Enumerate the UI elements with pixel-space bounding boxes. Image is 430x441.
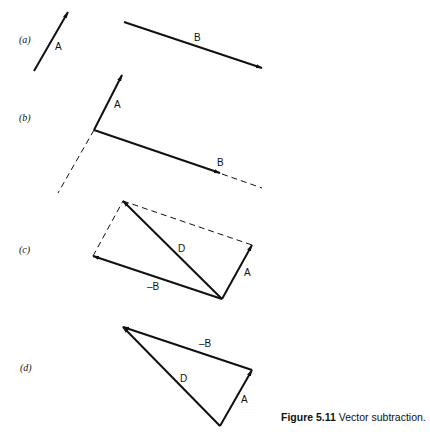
vector-neg-b [123, 327, 252, 370]
panel-d-label: (d) [20, 362, 32, 374]
panel-a: (a) A B [19, 12, 262, 71]
vector-subtraction-figure: (a) A B (b) A B (c) A –B D (d) A –B D [0, 0, 430, 441]
vector-a-extension-dashed [58, 130, 94, 193]
vector-a [34, 12, 68, 71]
panel-d: (d) A –B D [20, 327, 252, 426]
panel-c: (c) A –B D [19, 201, 252, 299]
vector-a-label: A [244, 267, 251, 278]
panel-b-label: (b) [19, 112, 31, 124]
vector-neg-b [93, 256, 222, 299]
vector-d-label: D [178, 243, 185, 254]
vector-neg-b-label: –B [147, 281, 160, 292]
vector-d-label: D [180, 373, 187, 384]
figure-number: Figure 5.11 [281, 411, 336, 423]
vector-b-extension-dashed [222, 174, 262, 188]
vector-a-label: A [114, 99, 121, 110]
panel-c-label: (c) [19, 244, 31, 256]
vector-neg-b-label: –B [199, 338, 212, 349]
panel-a-label: (a) [19, 34, 31, 46]
vector-b-label: B [194, 32, 201, 43]
parallelogram-left-dashed [93, 201, 123, 256]
vector-b [124, 22, 262, 68]
vector-b [94, 130, 220, 173]
vector-a-label: A [55, 41, 62, 52]
figure-caption-text: Vector subtraction. [339, 411, 426, 423]
vector-d [123, 201, 222, 299]
panel-b: (b) A B [19, 75, 262, 193]
figure-caption: Figure 5.11 Vector subtraction. [281, 411, 426, 423]
vector-b-label: B [217, 157, 224, 168]
parallelogram-top-dashed [123, 201, 252, 245]
vector-a-label: A [241, 394, 248, 405]
